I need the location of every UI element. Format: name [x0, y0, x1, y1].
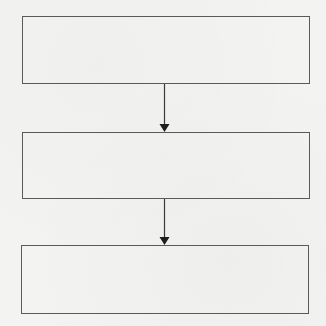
arrow-2-head-icon [160, 237, 170, 245]
arrow-box1-to-box2 [160, 84, 170, 132]
arrow-1-head-icon [160, 124, 170, 132]
arrows-layer [0, 0, 326, 326]
arrow-box2-to-box3 [160, 199, 170, 245]
